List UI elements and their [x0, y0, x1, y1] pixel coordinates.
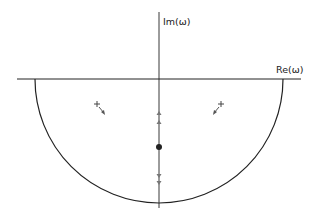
pole-right-arrow-icon	[213, 107, 219, 115]
imaginary-axis-label: Im(ω)	[163, 16, 190, 27]
contour-diagram-svg	[0, 0, 323, 210]
complex-plane-diagram: Im(ω) Re(ω)	[0, 0, 323, 210]
pole-left-arrow-icon	[99, 107, 105, 115]
pole-left	[94, 101, 100, 107]
center-point	[156, 144, 162, 150]
down-arrow-icon	[157, 181, 162, 185]
real-axis-label: Re(ω)	[276, 64, 303, 75]
up-arrow-icon	[157, 111, 162, 115]
down-arrow-icon	[157, 174, 162, 178]
pole-right	[218, 101, 224, 107]
up-arrow-icon	[157, 120, 162, 124]
